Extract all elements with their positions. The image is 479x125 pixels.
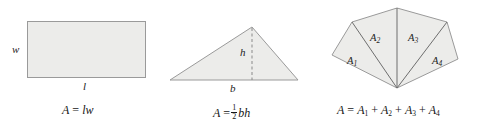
polygon-formula-term-4-base: A [429, 103, 436, 117]
triangle-area-formula: A =12bh [213, 104, 250, 122]
polygon-formula-plus-1: + [371, 103, 378, 117]
triangle-formula-equals: = [223, 106, 230, 120]
triangle-formula-expression: bh [238, 106, 250, 120]
polygon-formula-term-3-subscript: 3 [412, 109, 416, 118]
geometry-figure-panel: w l h b A1 A2 A3 A4 A = lw A =12bh A = A… [0, 0, 479, 125]
polygon-body [332, 8, 458, 88]
polygon-region-label-2: A2 [370, 33, 380, 44]
rectangle-length-label: l [83, 81, 86, 92]
rectangle-formula-area-symbol: A [62, 103, 69, 117]
polygon-formula-plus-3: + [419, 103, 426, 117]
triangle-height-label: h [240, 47, 246, 58]
polygon-formula-term-2-subscript: 2 [388, 109, 392, 118]
rectangle-width-label: w [12, 44, 19, 55]
polygon-formula-term-1-subscript: 1 [364, 109, 368, 118]
polygon-formula-term-4-subscript: 4 [436, 109, 440, 118]
triangle-body [170, 27, 298, 80]
triangle-formula-fraction-numerator: 1 [231, 104, 237, 112]
polygon-formula-area-symbol: A [337, 103, 344, 117]
polygon-region-1-subscript: 1 [353, 59, 357, 68]
polygon-formula-equals: = [347, 103, 354, 117]
polygon-shape [332, 8, 458, 88]
triangle-formula-fraction-denominator: 2 [231, 112, 237, 121]
polygon-region-label-1: A1 [347, 56, 357, 67]
triangle-formula-area-symbol: A [213, 106, 220, 120]
triangle-shape [170, 27, 298, 80]
rectangle-shape [28, 22, 146, 78]
rectangle-formula-expression: lw [82, 103, 93, 117]
triangle-base-label: b [230, 83, 236, 94]
polygon-region-2-subscript: 2 [376, 36, 380, 45]
triangle-formula-fraction: 12 [231, 104, 237, 122]
polygon-region-label-4: A4 [432, 56, 442, 67]
polygon-region-label-3: A3 [408, 33, 418, 44]
polygon-region-4-subscript: 4 [438, 59, 442, 68]
rectangle-area-formula: A = lw [62, 104, 93, 116]
polygon-area-formula: A = A1 + A2 + A3 + A4 [337, 104, 440, 116]
polygon-region-3-subscript: 3 [414, 36, 418, 45]
rectangle-formula-equals: = [72, 103, 79, 117]
polygon-formula-plus-2: + [395, 103, 402, 117]
rectangle-body [28, 22, 146, 78]
